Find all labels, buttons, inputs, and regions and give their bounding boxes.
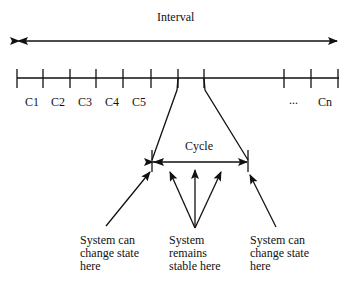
cycle-label-c2: C2 [51, 96, 65, 108]
cycle-label-c3: C3 [78, 96, 92, 108]
interval-arrow [17, 37, 337, 45]
annotation-change-state-right: System can change state here [250, 234, 330, 273]
cycle-bar [152, 150, 248, 172]
cycle-label-c1: C1 [25, 96, 39, 108]
pointer-arrows [106, 170, 276, 228]
annotation-line: here [80, 260, 160, 273]
cycle-label: Cycle [185, 140, 213, 152]
cycle-label-cn: Cn [318, 96, 332, 108]
cycle-label-c5: C5 [132, 96, 146, 108]
interval-label: Interval [157, 11, 194, 23]
annotation-line: stable here [169, 260, 249, 273]
annotation-line: here [250, 260, 330, 273]
cycle-label-c4: C4 [105, 96, 119, 108]
cycle-label-ellipsis: ... [289, 94, 298, 106]
annotation-stable: System remains stable here [169, 234, 249, 273]
annotation-change-state-left: System can change state here [80, 234, 160, 273]
